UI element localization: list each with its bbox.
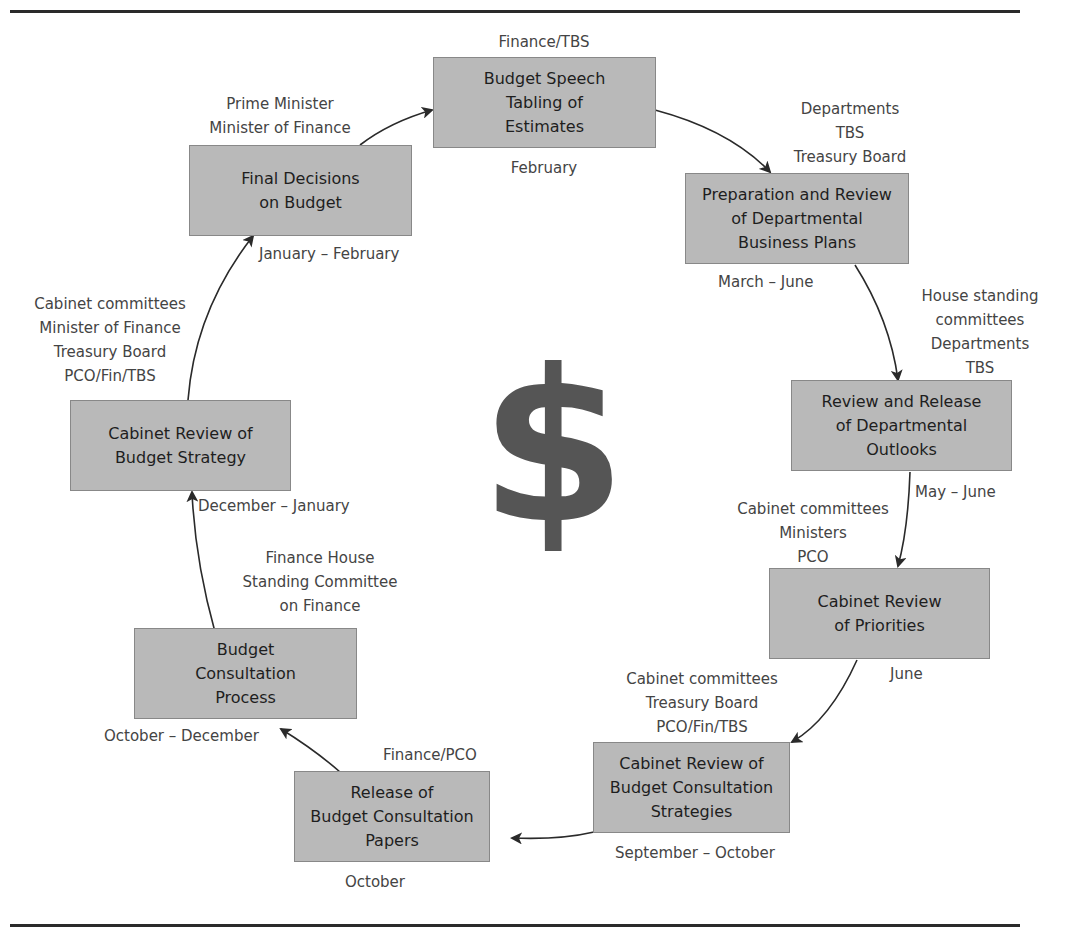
node-final-decisions: Final Decisions on Budget [189,145,412,236]
period-budget-strategy: December – January [198,494,388,518]
node-consultation-process: Budget Consultation Process [134,628,357,719]
actors-departmental-outlooks: House standing committees Departments TB… [905,284,1055,380]
arrow-speech-to-plans [655,110,770,172]
actors-review-priorities: Cabinet committees Ministers PCO [723,497,903,569]
actors-business-plans: Departments TBS Treasury Board [770,97,930,169]
node-departmental-outlooks: Review and Release of Departmental Outlo… [791,380,1012,471]
arrow-priorities-to-strategies [792,660,857,742]
period-review-priorities: June [890,662,950,686]
node-consultation-strategies: Cabinet Review of Budget Consultation St… [593,742,790,833]
dollar-icon: $ [480,348,590,548]
period-consultation-strategies: September – October [593,841,838,865]
node-budget-speech: Budget Speech Tabling of Estimates [433,57,656,148]
actors-consultation-papers: Finance/PCO [340,743,520,767]
period-business-plans: March – June [718,270,868,294]
actors-final-decisions: Prime Minister Minister of Finance [190,92,370,140]
arrow-final-to-speech [360,110,432,145]
period-departmental-outlooks: May – June [915,480,1035,504]
period-final-decisions: January – February [259,242,449,266]
actors-budget-strategy: Cabinet committees Minister of Finance T… [20,292,200,388]
node-consultation-papers: Release of Budget Consultation Papers [294,771,490,862]
actors-consultation-process: Finance House Standing Committee on Fina… [210,546,430,618]
period-consultation-papers: October [320,870,430,894]
node-review-priorities: Cabinet Review of Priorities [769,568,990,659]
node-business-plans: Preparation and Review of Departmental B… [685,173,909,264]
node-budget-strategy: Cabinet Review of Budget Strategy [70,400,291,491]
actors-consultation-strategies: Cabinet committees Treasury Board PCO/Fi… [612,667,792,739]
actors-budget-speech: Finance/TBS [433,30,655,54]
arrow-strategies-to-papers [512,832,594,838]
period-consultation-process: October – December [104,724,294,748]
period-budget-speech: February [433,156,655,180]
